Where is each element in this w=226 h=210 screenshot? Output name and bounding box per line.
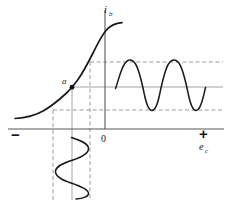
guide-lines-group [53,62,223,200]
figure-canvas: i b e c 0 − + a [0,0,226,210]
transfer-characteristic-figure: i b e c 0 − + a [0,0,226,210]
operating-point-dot [70,85,75,90]
y-axis-label-symbol: i [104,4,107,15]
output-plate-current-waveform [116,60,206,111]
axes-group [8,10,224,129]
transfer-characteristic-curve [15,23,122,119]
positive-axis-sign: + [199,125,208,142]
x-axis-label-symbol: e [199,141,204,152]
y-axis-label-subscript: b [109,10,113,18]
x-axis-label-subscript: c [205,147,209,155]
operating-point-label: a [62,76,67,86]
negative-axis-sign: − [11,126,20,143]
origin-label: 0 [101,133,106,144]
